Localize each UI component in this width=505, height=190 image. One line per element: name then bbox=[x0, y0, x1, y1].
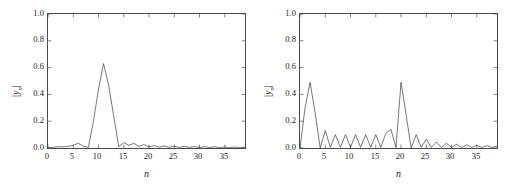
x-tick-label: 25 bbox=[163, 152, 183, 161]
plot-area-left bbox=[47, 13, 246, 149]
figure-container: |yn| 1.0 0.8 0.6 0.4 0.2 0.0 bbox=[0, 0, 505, 190]
y-tick-label: 1.0 bbox=[272, 9, 296, 17]
tick-marks-right bbox=[300, 14, 497, 148]
panel-left: |yn| 1.0 0.8 0.6 0.4 0.2 0.0 bbox=[0, 0, 252, 190]
tick-marks-left bbox=[48, 14, 245, 148]
plot-svg-right bbox=[300, 14, 497, 148]
y-tick-label: 0.8 bbox=[20, 35, 44, 43]
x-tick-label: 30 bbox=[188, 152, 208, 161]
y-tick-label: 0.2 bbox=[272, 116, 296, 124]
y-tick-label: 0.0 bbox=[20, 143, 44, 151]
panel-right: |yn| 1.0 0.8 0.6 0.4 0.2 0.0 bbox=[252, 0, 504, 190]
y-tick-label: 0.4 bbox=[272, 89, 296, 97]
y-tick-label: 0.8 bbox=[272, 35, 296, 43]
x-tick-label: 10 bbox=[87, 152, 107, 161]
y-tick-label: 0.6 bbox=[272, 62, 296, 70]
y-axis-bar-right: | bbox=[9, 85, 21, 87]
x-tick-label: 35 bbox=[466, 152, 486, 161]
y-tick-label: 0.0 bbox=[272, 143, 296, 151]
data-series-left bbox=[48, 64, 245, 148]
x-tick-label: 0 bbox=[37, 152, 57, 161]
x-tick-label: 20 bbox=[138, 152, 158, 161]
x-tick-label: 35 bbox=[214, 152, 234, 161]
y-tick-label: 0.2 bbox=[20, 116, 44, 124]
x-tick-label: 5 bbox=[62, 152, 82, 161]
x-tick-label: 15 bbox=[113, 152, 133, 161]
plot-svg-left bbox=[48, 14, 245, 148]
x-tick-label: 5 bbox=[314, 152, 334, 161]
x-axis-label-left: n bbox=[47, 168, 246, 179]
x-axis-label-right: n bbox=[299, 168, 498, 179]
x-tick-label: 30 bbox=[440, 152, 460, 161]
y-tick-label: 0.4 bbox=[20, 89, 44, 97]
x-tick-label: 0 bbox=[289, 152, 309, 161]
x-tick-label: 25 bbox=[415, 152, 435, 161]
plot-area-right bbox=[299, 13, 498, 149]
data-series-right bbox=[300, 82, 497, 148]
x-tick-label: 10 bbox=[339, 152, 359, 161]
x-tick-label: 20 bbox=[390, 152, 410, 161]
y-axis-bar-right: | bbox=[261, 85, 273, 87]
y-tick-label: 1.0 bbox=[20, 9, 44, 17]
x-tick-label: 15 bbox=[365, 152, 385, 161]
y-tick-label: 0.6 bbox=[20, 62, 44, 70]
